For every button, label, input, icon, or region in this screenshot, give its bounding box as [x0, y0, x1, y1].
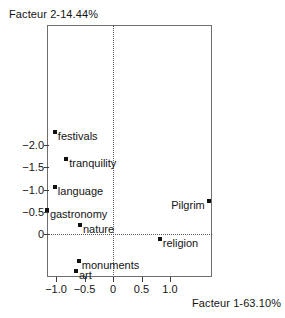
- data-point-pilgrim[interactable]: [207, 199, 211, 203]
- data-point-label-tranquility: tranquility: [69, 157, 116, 169]
- x-axis-tick: [113, 277, 114, 282]
- x-axis-tick: [142, 277, 143, 282]
- data-point-language[interactable]: [53, 185, 57, 189]
- x-axis-tick-label: −0.5: [74, 283, 96, 295]
- x-axis-tick: [170, 277, 171, 282]
- x-axis-tick-label: 0.5: [134, 283, 149, 295]
- reference-line-horizontal: [47, 234, 212, 235]
- data-point-label-language: language: [58, 185, 103, 197]
- data-point-label-nature: nature: [83, 223, 114, 235]
- reference-line-vertical: [113, 25, 114, 277]
- data-point-festivals[interactable]: [53, 130, 57, 134]
- y-axis-tick-label: −1.0: [22, 184, 44, 196]
- y-axis-tick: [44, 167, 49, 168]
- scatter-plot-figure: Facteur 2-14.44% Facteur 1-63.10% −1.0−0…: [0, 0, 285, 318]
- y-axis-tick-label: −2.0: [22, 139, 44, 151]
- y-axis-tick: [44, 145, 49, 146]
- x-axis-title: Facteur 1-63.10%: [192, 297, 281, 309]
- data-point-monuments[interactable]: [77, 259, 81, 263]
- data-point-art[interactable]: [74, 269, 78, 273]
- data-point-tranquility[interactable]: [64, 157, 68, 161]
- data-point-label-art: art: [79, 269, 92, 281]
- data-point-religion[interactable]: [158, 237, 162, 241]
- y-axis-tick: [44, 190, 49, 191]
- x-axis-tick-label: −1.0: [45, 283, 67, 295]
- x-axis-tick-label: 0: [110, 283, 116, 295]
- y-axis-tick-label: −0.5: [22, 206, 44, 218]
- data-point-label-religion: religion: [163, 237, 198, 249]
- data-point-label-festivals: festivals: [58, 130, 98, 142]
- y-axis-tick-label: −1.5: [22, 161, 44, 173]
- x-axis-tick-label: 1.0: [162, 283, 177, 295]
- data-point-nature[interactable]: [78, 223, 82, 227]
- x-axis-tick: [56, 277, 57, 282]
- y-axis-tick-label: 0: [38, 228, 44, 240]
- data-point-label-pilgrim: Pilgrim: [171, 199, 205, 211]
- y-axis-tick: [44, 234, 49, 235]
- y-axis-title: Facteur 2-14.44%: [9, 8, 98, 20]
- data-point-gastronomy[interactable]: [45, 208, 49, 212]
- data-point-label-gastronomy: gastronomy: [50, 208, 107, 220]
